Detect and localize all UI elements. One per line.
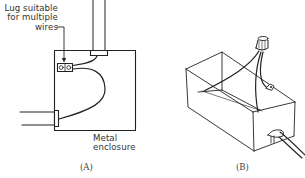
lug-leader-arrowhead	[62, 58, 66, 63]
lug-label-line3: wires	[4, 23, 58, 32]
wire-lug-to-left	[59, 68, 105, 119]
box-left-face	[186, 69, 254, 151]
ground-screw	[266, 84, 274, 90]
box-back-rim	[186, 52, 295, 102]
lug-label: Lug suitable for multiple wires	[4, 4, 58, 32]
enclosure-label-line2: enclosure	[93, 143, 136, 152]
panel-b-caption: (B)	[236, 162, 249, 172]
wire-b-2	[256, 52, 261, 112]
cable-b-upper	[280, 132, 305, 155]
panel-b-drawing	[186, 37, 305, 159]
wire-top-to-lug	[73, 56, 97, 66]
metal-enclosure-box	[55, 51, 136, 131]
box-front-corner-edge	[253, 112, 254, 151]
cable-b-lower	[279, 137, 302, 158]
enclosure-label: Metal enclosure	[93, 134, 136, 153]
panel-a-caption: (A)	[80, 162, 93, 172]
left-connector	[55, 111, 59, 127]
wire-nut	[256, 37, 268, 51]
top-connector	[91, 51, 108, 56]
lug-leader-line	[57, 27, 64, 60]
box-right-edge	[294, 102, 295, 136]
